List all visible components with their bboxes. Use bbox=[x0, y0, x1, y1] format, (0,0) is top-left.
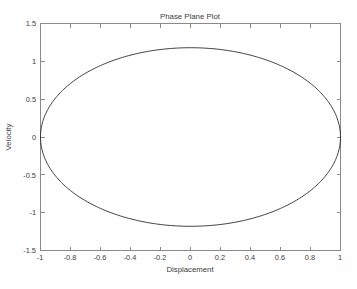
x-tick-label: -0.8 bbox=[64, 253, 77, 262]
y-tick-label: -1 bbox=[29, 208, 36, 217]
chart-title: Phase Plane Plot bbox=[160, 12, 221, 21]
x-tick-label: 0.6 bbox=[275, 253, 285, 262]
x-tick-label: -0.6 bbox=[94, 253, 107, 262]
y-axis-title: Velocity bbox=[4, 123, 13, 150]
y-tick-label: 1.5 bbox=[26, 19, 36, 28]
plot-area-background bbox=[40, 23, 340, 250]
x-axis-title: Displacement bbox=[166, 265, 214, 274]
x-tick-label: -1 bbox=[37, 253, 44, 262]
x-tick-label: 0.8 bbox=[305, 253, 315, 262]
phase-plane-chart: Phase Plane Plot bbox=[0, 0, 357, 289]
y-tick-label: 0.5 bbox=[26, 95, 36, 104]
x-tick-label: -0.4 bbox=[124, 253, 137, 262]
y-tick-label: 0 bbox=[32, 133, 36, 142]
y-tick-labels: -1.5 -1 -0.5 0 0.5 1 1.5 bbox=[23, 19, 36, 255]
x-tick-label: 0 bbox=[188, 253, 192, 262]
x-tick-label: -0.2 bbox=[154, 253, 167, 262]
figure-canvas: Phase Plane Plot bbox=[0, 0, 357, 289]
x-tick-label: 1 bbox=[338, 253, 342, 262]
y-tick-label: -1.5 bbox=[23, 246, 36, 255]
x-tick-labels: -1 -0.8 -0.6 -0.4 -0.2 0 0.2 0.4 0.6 0.8… bbox=[37, 253, 342, 262]
y-tick-label: -0.5 bbox=[23, 171, 36, 180]
x-tick-label: 0.2 bbox=[215, 253, 225, 262]
x-tick-label: 0.4 bbox=[245, 253, 255, 262]
y-tick-label: 1 bbox=[32, 57, 36, 66]
